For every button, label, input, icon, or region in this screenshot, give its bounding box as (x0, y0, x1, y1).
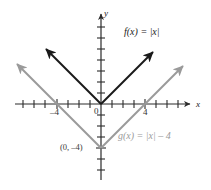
y-axis (96, 14, 106, 180)
y-axis-label: y (104, 9, 108, 18)
origin-tick-label: 0 (94, 107, 99, 116)
x-tick-label-minus-4: –4 (50, 108, 59, 117)
function-label-g: g(x) = |x| – 4 (118, 131, 171, 141)
absolute-value-graph-figure: y x 0 –4 4 f(x) = |x| g(x) = |x| – 4 (0,… (0, 0, 211, 190)
function-label-f: f(x) = |x| (124, 27, 160, 37)
x-axis-label: x (196, 100, 200, 109)
curve-f-absolute-value (46, 49, 153, 104)
x-tick-label-4: 4 (143, 108, 148, 117)
x-axis (15, 99, 190, 109)
graph-canvas (0, 0, 211, 190)
point-label-0-minus-4: (0, –4) (60, 143, 83, 152)
